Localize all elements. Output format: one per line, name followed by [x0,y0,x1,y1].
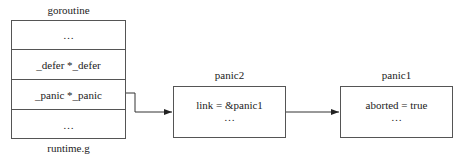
panic2-link-field: link = &panic1 [174,99,285,111]
goroutine-footer: runtime.g [11,142,126,154]
goroutine-struct: … _defer *_defer _panic *_panic … [11,20,126,139]
arrow-goroutine-to-panic2 [125,93,172,112]
goroutine-row-ellipsis-bottom: … [12,109,125,140]
panic1-title: panic1 [340,69,453,81]
panic1-ellipsis: … [341,111,452,123]
goroutine-title: goroutine [11,4,126,16]
goroutine-row-defer: _defer *_defer [12,49,125,80]
panic2-ellipsis: … [174,111,285,123]
goroutine-row-panic: _panic *_panic [12,79,125,110]
panic1-aborted-field: aborted = true [341,99,452,111]
panic2-struct: link = &panic1 … [173,86,286,138]
panic2-title: panic2 [173,69,286,81]
panic1-struct: aborted = true … [340,86,453,138]
goroutine-row-ellipsis-top: … [12,21,125,49]
